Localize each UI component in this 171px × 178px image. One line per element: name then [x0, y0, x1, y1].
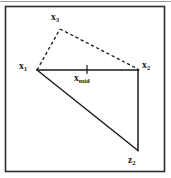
geometry-figure: x3 x1 x2 xmid z2 — [0, 0, 171, 178]
label-x2: x2 — [142, 61, 150, 71]
label-xmid-subscript: mid — [79, 77, 90, 84]
figure-canvas — [0, 0, 171, 178]
figure-frame — [6, 7, 165, 172]
label-x2-subscript: 2 — [147, 64, 150, 71]
label-x3: x3 — [51, 13, 59, 23]
label-z2: z2 — [128, 156, 136, 166]
label-x1-subscript: 1 — [24, 65, 27, 72]
label-x3-subscript: 3 — [56, 16, 59, 23]
label-x1: x1 — [19, 62, 27, 72]
label-z2-subscript: 2 — [132, 159, 135, 166]
label-xmid: xmid — [74, 74, 90, 84]
